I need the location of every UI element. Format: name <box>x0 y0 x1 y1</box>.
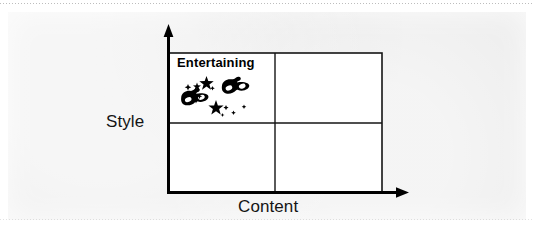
x-axis-label: Content <box>238 197 298 217</box>
y-axis-arrowhead-icon <box>164 24 174 37</box>
quadrant-cell-bottom-left <box>168 123 275 193</box>
y-axis-label: Style <box>106 112 144 132</box>
x-axis-arrowhead-icon <box>396 187 409 197</box>
figure-canvas: Entertaining Style Content <box>0 0 534 243</box>
quadrant-grid <box>168 53 382 193</box>
quadrant-cell-top-right <box>275 53 382 123</box>
quadrant-label-entertaining: Entertaining <box>177 55 255 70</box>
quadrant-cell-bottom-right <box>275 123 382 193</box>
